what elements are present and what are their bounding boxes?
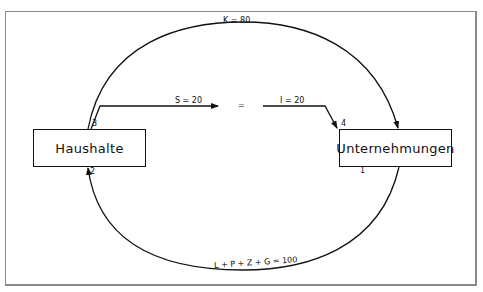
marker-3: 3	[92, 119, 97, 128]
equals-sign: =	[238, 101, 245, 110]
node-haushalte: Haushalte	[33, 129, 146, 167]
marker-1: 1	[360, 166, 365, 175]
marker-4: 4	[341, 119, 346, 128]
savings-label: S = 20	[175, 96, 202, 105]
node-haushalte-label: Haushalte	[55, 141, 123, 156]
income-flow-arc	[88, 167, 399, 270]
investment-flow-line	[263, 106, 337, 128]
consumption-flow-arc	[88, 22, 398, 129]
marker-2: 2	[90, 167, 95, 176]
node-unternehmungen-label: Unternehmungen	[336, 141, 454, 156]
savings-flow-line	[91, 106, 218, 129]
consumption-label: K = 80	[223, 16, 250, 25]
investment-label: I = 20	[280, 96, 304, 105]
node-unternehmungen: Unternehmungen	[339, 129, 452, 167]
